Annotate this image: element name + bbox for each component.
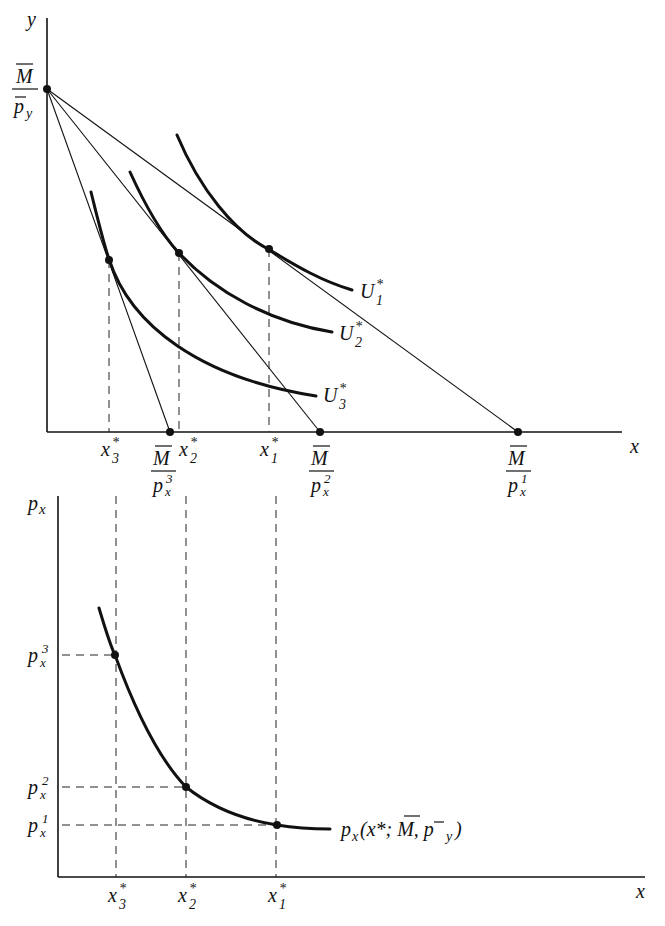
svg-text:*: * [189,881,196,896]
budget-line-1 [47,89,518,432]
svg-text:2: 2 [324,471,331,486]
svg-text:(x*; M, p: (x*; M, p [360,818,434,841]
svg-text:x: x [107,884,117,906]
svg-text:p: p [12,95,24,118]
svg-text:U: U [360,280,376,302]
svg-text:p: p [151,474,163,497]
svg-text:3: 3 [41,641,49,656]
svg-text:x: x [351,829,359,844]
svg-text:3: 3 [118,897,126,912]
svg-text:2: 2 [189,897,196,912]
bottom-panel: p x p x 3 p x 2 p x 1 x * 3 x * 2 [26,492,645,912]
svg-text:x: x [39,825,46,840]
y-intercept-label: M p y [12,64,38,121]
px-axis-label: p x [26,492,46,517]
intercept-label-3: M p x 3 [151,446,176,499]
svg-text:x: x [100,438,110,460]
demand-curve-label: p x (x*; M, p y ) [339,816,462,844]
svg-text:y: y [444,829,453,844]
indifference-curve-u3 [91,192,316,396]
top-x-axis-label: x [629,435,639,457]
y-intercept-point [43,85,51,93]
intercept-label-1: M p x 1 [506,446,531,499]
svg-text:1: 1 [279,897,286,912]
svg-text:3: 3 [165,471,173,486]
svg-text:*: * [355,319,362,334]
svg-text:M: M [15,65,34,87]
top-tick-x2: x * 2 [178,435,197,466]
svg-text:p: p [506,474,518,497]
price-tick-1: p x 1 [26,811,49,840]
svg-text:U: U [339,322,355,344]
tangency-point-1 [265,245,273,253]
x-intercept-3 [166,428,174,436]
label-u2: U * 2 [339,319,362,350]
bottom-x-axis-label: x [635,880,645,902]
bottom-tick-x1: x * 1 [267,881,286,912]
intercept-label-2: M p x 2 [309,446,334,499]
svg-text:2: 2 [355,335,362,350]
svg-text:p: p [26,776,38,799]
demand-point-2 [182,783,190,791]
label-u3: U * 3 [323,381,346,412]
top-tick-x3: x * 3 [100,435,119,466]
price-tick-3: p x 3 [26,641,49,670]
svg-text:p: p [26,644,38,667]
svg-text:*: * [339,381,346,396]
svg-text:p: p [339,818,351,841]
x-intercept-2 [316,428,324,436]
svg-text:3: 3 [111,451,119,466]
indifference-curve-u1 [177,135,352,290]
svg-text:x: x [39,787,46,802]
svg-text:p: p [26,814,38,837]
svg-text:U: U [323,384,339,406]
svg-text:*: * [112,435,119,450]
svg-text:2: 2 [42,773,49,788]
top-panel: y M p y U * 1 U * 2 U * 3 x * [12,8,639,499]
svg-text:x: x [164,484,171,499]
svg-text:M: M [507,447,526,469]
svg-text:1: 1 [42,811,49,826]
label-u1: U * 1 [360,277,383,308]
budget-line-2 [47,89,320,432]
svg-text:1: 1 [376,293,383,308]
svg-text:x: x [178,438,188,460]
demand-curve [99,608,330,829]
svg-text:x: x [39,655,46,670]
price-tick-2: p x 2 [26,773,49,802]
indifference-curve-u2 [130,172,332,332]
svg-text:x: x [519,484,526,499]
svg-text:*: * [119,881,126,896]
svg-text:M: M [152,447,171,469]
svg-text:): ) [454,818,462,841]
top-tick-x1: x * 1 [259,435,278,466]
demand-point-1 [273,821,281,829]
svg-text:x: x [38,501,46,517]
demand-derivation-diagram: y M p y U * 1 U * 2 U * 3 x * [0,0,665,926]
svg-text:x: x [259,438,269,460]
svg-text:*: * [376,277,383,292]
svg-text:y: y [24,106,33,121]
svg-text:*: * [190,435,197,450]
svg-text:M: M [310,447,329,469]
y-axis-label: y [25,8,36,31]
x-intercept-1 [514,428,522,436]
svg-text:1: 1 [521,471,528,486]
svg-text:2: 2 [190,451,197,466]
svg-text:*: * [271,435,278,450]
svg-text:p: p [26,492,38,515]
svg-text:x: x [177,884,187,906]
svg-text:x: x [267,884,277,906]
tangency-point-2 [175,249,183,257]
svg-text:p: p [309,474,321,497]
svg-text:1: 1 [271,451,278,466]
svg-text:3: 3 [338,397,346,412]
bottom-tick-x3: x * 3 [107,881,126,912]
bottom-tick-x2: x * 2 [177,881,196,912]
svg-text:*: * [279,881,286,896]
svg-text:x: x [322,484,329,499]
demand-point-3 [111,651,119,659]
tangency-point-3 [105,256,113,264]
